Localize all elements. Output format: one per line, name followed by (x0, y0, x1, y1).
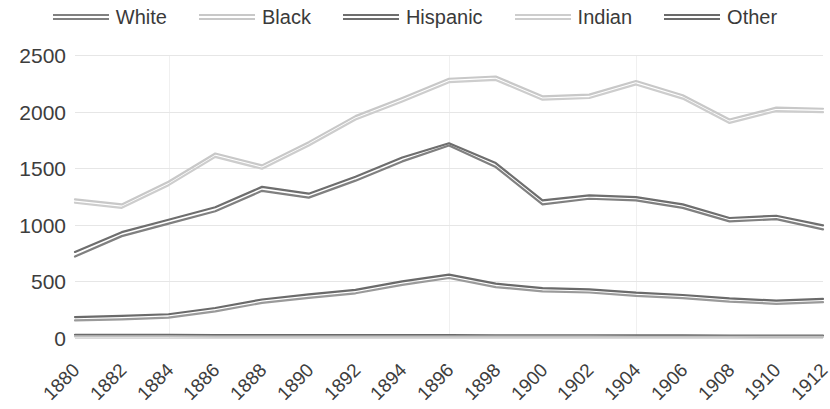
y-axis-tick-label: 500 (31, 271, 66, 292)
x-axis-tick-label: 1896 (414, 360, 457, 403)
x-axis-tick-label: 1912 (788, 360, 830, 403)
x-axis-tick-label: 1880 (40, 360, 83, 403)
x-axis-tick-label: 1888 (227, 360, 270, 403)
y-axis-tick-label: 2000 (19, 101, 66, 122)
line-swatch-icon (664, 13, 720, 22)
y-axis-tick-label: 2500 (19, 45, 66, 66)
legend-label: White (116, 7, 167, 27)
legend-label: Indian (578, 7, 633, 27)
x-axis-tick-label: 1902 (554, 360, 597, 403)
plot-area (75, 55, 823, 338)
legend-item-black[interactable]: Black (199, 7, 311, 27)
x-axis-tick-label: 1906 (647, 360, 690, 403)
legend-item-other[interactable]: Other (664, 7, 777, 27)
series-line-other (75, 275, 823, 317)
x-axis-tick-label: 1900 (507, 360, 550, 403)
x-axis-tick-label: 1898 (460, 360, 503, 403)
y-axis: 25002000150010005000 (0, 55, 66, 338)
x-axis-tick-label: 1882 (86, 360, 129, 403)
series-line-hispanic (75, 143, 823, 252)
x-axis-tick-label: 1886 (180, 360, 223, 403)
x-axis-tick-label: 1894 (367, 360, 410, 403)
line-swatch-icon (515, 13, 571, 22)
x-axis-tick-label: 1892 (320, 360, 363, 403)
line-swatch-icon (199, 13, 255, 22)
series-line-white (75, 146, 823, 257)
line-swatch-icon (343, 13, 399, 22)
legend-label: Black (262, 7, 311, 27)
x-axis-tick-label: 1910 (741, 360, 784, 403)
legend-label: Hispanic (406, 7, 483, 27)
x-axis-tick-label: 1908 (694, 360, 737, 403)
legend-item-indian[interactable]: Indian (515, 7, 633, 27)
line-chart: WhiteBlackHispanicIndianOther 2500200015… (0, 0, 830, 409)
y-axis-tick-label: 0 (54, 328, 66, 349)
chart-legend: WhiteBlackHispanicIndianOther (0, 0, 830, 34)
series-line-black (75, 77, 823, 205)
data-lines (75, 55, 823, 338)
x-axis-tick-label: 1904 (601, 360, 644, 403)
x-axis-tick-label: 1884 (133, 360, 176, 403)
x-axis-tick-label: 1890 (273, 360, 316, 403)
legend-item-white[interactable]: White (53, 7, 167, 27)
line-swatch-icon (53, 13, 109, 22)
series-line-other-upper (75, 278, 823, 320)
x-axis: 1880188218841886188818901892189418961898… (75, 338, 823, 409)
y-axis-tick-label: 1500 (19, 158, 66, 179)
legend-item-hispanic[interactable]: Hispanic (343, 7, 483, 27)
legend-label: Other (727, 7, 777, 27)
y-axis-tick-label: 1000 (19, 214, 66, 235)
